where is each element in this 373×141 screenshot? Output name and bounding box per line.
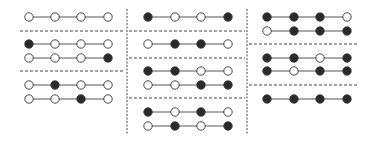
empty-node	[77, 40, 85, 48]
empty-node	[197, 13, 205, 21]
state-row	[263, 95, 351, 103]
filled-node	[171, 67, 179, 75]
filled-node	[343, 95, 351, 103]
empty-node	[104, 13, 112, 21]
state-row	[25, 81, 112, 89]
state-row	[263, 27, 351, 35]
filled-node	[104, 54, 112, 62]
empty-node	[263, 27, 271, 35]
state-row	[144, 40, 232, 48]
state-row	[144, 122, 232, 130]
empty-node	[25, 54, 33, 62]
column-1	[20, 13, 125, 103]
filled-node	[290, 13, 298, 21]
empty-node	[224, 40, 232, 48]
filled-node	[316, 95, 324, 103]
filled-node	[343, 54, 351, 62]
state-group	[25, 81, 112, 103]
empty-node	[171, 81, 179, 89]
filled-node	[144, 13, 152, 21]
empty-node	[51, 40, 59, 48]
empty-node	[77, 81, 85, 89]
empty-node	[104, 81, 112, 89]
filled-node	[343, 27, 351, 35]
empty-node	[51, 13, 59, 21]
state-row	[25, 13, 112, 21]
empty-node	[197, 122, 205, 130]
state-group	[263, 54, 351, 75]
state-group	[263, 13, 351, 35]
state-row	[263, 13, 351, 21]
state-row	[144, 67, 232, 75]
state-group	[25, 13, 112, 21]
filled-node	[263, 67, 271, 75]
filled-node	[263, 13, 271, 21]
empty-node	[224, 108, 232, 116]
filled-node	[144, 108, 152, 116]
filled-node	[224, 122, 232, 130]
state-row	[144, 108, 232, 116]
empty-node	[144, 122, 152, 130]
empty-node	[104, 95, 112, 103]
state-group	[144, 40, 232, 48]
filled-node	[316, 13, 324, 21]
empty-node	[171, 13, 179, 21]
filled-node	[171, 122, 179, 130]
empty-node	[25, 95, 33, 103]
filled-node	[290, 54, 298, 62]
state-row	[144, 13, 232, 21]
filled-node	[77, 95, 85, 103]
empty-node	[25, 13, 33, 21]
filled-node	[144, 67, 152, 75]
empty-node	[171, 108, 179, 116]
state-group	[144, 13, 232, 21]
state-group	[144, 67, 232, 89]
state-row	[25, 40, 112, 48]
filled-node	[263, 54, 271, 62]
empty-node	[224, 67, 232, 75]
filled-node	[51, 81, 59, 89]
filled-node	[290, 27, 298, 35]
state-row	[263, 67, 351, 75]
empty-node	[25, 81, 33, 89]
empty-node	[144, 81, 152, 89]
empty-node	[144, 40, 152, 48]
filled-node	[224, 13, 232, 21]
state-group	[144, 108, 232, 130]
state-row	[25, 54, 112, 62]
empty-node	[290, 67, 298, 75]
filled-node	[343, 67, 351, 75]
empty-node	[77, 13, 85, 21]
state-group	[263, 95, 351, 103]
filled-node	[197, 108, 205, 116]
state-group	[25, 40, 112, 62]
filled-node	[290, 95, 298, 103]
state-row	[263, 54, 351, 62]
filled-node	[25, 40, 33, 48]
state-row	[25, 95, 112, 103]
empty-node	[77, 54, 85, 62]
filled-node	[224, 81, 232, 89]
empty-node	[104, 40, 112, 48]
filled-node	[316, 27, 324, 35]
empty-node	[51, 54, 59, 62]
filled-node	[197, 81, 205, 89]
diagram-canvas	[0, 0, 373, 141]
empty-node	[197, 67, 205, 75]
empty-node	[51, 95, 59, 103]
empty-node	[343, 13, 351, 21]
state-chain-diagram	[0, 0, 373, 141]
empty-node	[316, 54, 324, 62]
column-3	[249, 13, 358, 103]
filled-node	[171, 40, 179, 48]
filled-node	[263, 95, 271, 103]
state-row	[144, 81, 232, 89]
column-2	[129, 13, 245, 130]
filled-node	[197, 40, 205, 48]
filled-node	[316, 67, 324, 75]
